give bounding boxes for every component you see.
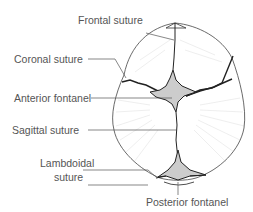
skull-illustration	[0, 0, 253, 212]
label-lambdoidal-line2: suture	[54, 171, 83, 183]
leader-frontal-suture	[146, 33, 174, 40]
label-frontal-suture: Frontal suture	[78, 14, 143, 26]
label-posterior-fontanel: Posterior fontanel	[146, 196, 228, 208]
leader-coronal-suture	[88, 59, 126, 78]
label-coronal-suture: Coronal suture	[14, 53, 83, 65]
frontal-suture-line	[173, 23, 175, 70]
occipital-arc	[164, 182, 194, 185]
anterior-fontanel-shape	[150, 70, 196, 112]
label-lambdoidal-line1: Lambdoidal	[40, 157, 94, 169]
leader-lines	[83, 33, 178, 195]
skull-diagram: Frontal suture Coronal suture Anterior f…	[0, 0, 253, 212]
label-sagittal-suture: Sagittal suture	[12, 124, 79, 136]
label-anterior-fontanel: Anterior fontanel	[14, 92, 91, 104]
bone-radial-texture	[116, 40, 244, 162]
leader-lambdoidal-suture	[83, 170, 156, 177]
